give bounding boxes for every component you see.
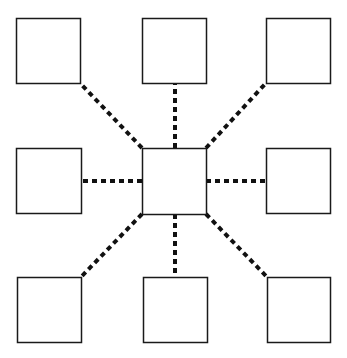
node-box-middle-right	[267, 149, 331, 214]
node-box-bottom-center	[144, 278, 208, 343]
node-boxes	[17, 19, 331, 343]
node-box-top-left	[17, 19, 81, 84]
node-box-middle-left	[17, 149, 82, 214]
connector-bottom-left	[81, 214, 142, 277]
node-box-top-right	[267, 19, 331, 84]
node-box-bottom-right	[268, 278, 331, 343]
connector-bottom-right	[206, 214, 267, 277]
hub-spoke-diagram	[0, 0, 347, 358]
node-box-top-center	[143, 19, 207, 84]
connector-top-right	[206, 83, 266, 148]
node-box-bottom-left	[18, 278, 82, 343]
node-box-center	[143, 149, 207, 215]
diagram-canvas	[0, 0, 347, 358]
connector-top-left	[80, 83, 142, 148]
